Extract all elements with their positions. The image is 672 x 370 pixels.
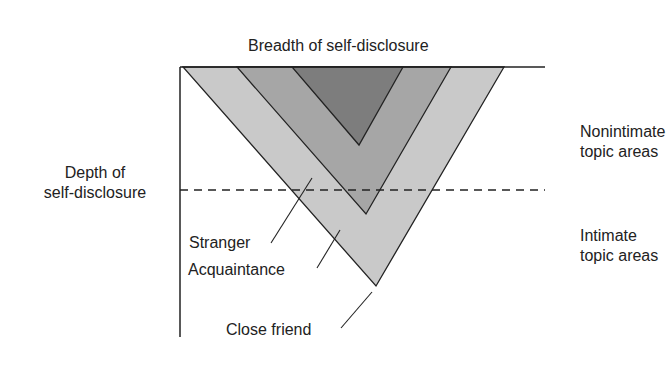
acquaintance-leader — [317, 230, 340, 268]
close-friend-label: Close friend — [226, 320, 311, 340]
intimate-line1: Intimate — [580, 226, 658, 246]
breadth-title: Breadth of self-disclosure — [248, 36, 429, 56]
acquaintance-label: Acquaintance — [188, 260, 285, 280]
stranger-label: Stranger — [189, 233, 250, 253]
nonintimate-line2: topic areas — [580, 142, 665, 162]
nonintimate-label: Nonintimate topic areas — [580, 122, 665, 162]
nonintimate-line1: Nonintimate — [580, 122, 665, 142]
intimate-label: Intimate topic areas — [580, 226, 658, 266]
close-friend-leader — [341, 292, 372, 328]
depth-label: Depth of self-disclosure — [20, 163, 170, 203]
depth-label-line2: self-disclosure — [20, 183, 170, 203]
depth-label-line1: Depth of — [20, 163, 170, 183]
intimate-line2: topic areas — [580, 246, 658, 266]
